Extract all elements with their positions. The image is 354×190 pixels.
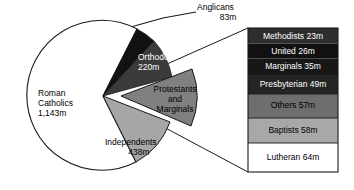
pie-label-roman-catholics-l1: Roman [38,88,65,98]
pie-label-orthodox-name: Orthodox [138,52,173,62]
bar-label-presbyterian: Presbyterian 49m [249,79,337,89]
pie-label-independents-name: Independents [105,137,157,147]
chart-figure: Anglicans83m Orthodox220m RomanCatholics… [0,0,354,190]
pie-label-protestants-l3: Marginals [157,104,194,114]
pie-label-roman-catholics-value: 1,143m [38,108,66,118]
pie-label-roman-catholics: RomanCatholics1,143m [38,88,118,118]
bar-label-methodists: Methodists 23m [249,31,337,41]
bar-label-others: Others 57m [249,100,337,110]
pie-label-protestants-l2: and [168,94,182,104]
pie-label-roman-catholics-l2: Catholics [38,98,73,108]
pie-label-independents-value: 438m [105,147,173,157]
pie-label-orthodox: Orthodox220m [138,52,218,72]
pie-label-orthodox-value: 220m [138,62,159,72]
pie-label-independents: Independents438m [105,137,201,157]
pie-label-protestants-and-marginals: ProtestantsandMarginals [136,84,214,114]
pie-label-anglicans-value: 83m [197,12,259,22]
pie-label-protestants-l1: Protestants [154,84,197,94]
pie-label-anglicans: Anglicans83m [197,2,293,22]
bar-label-lutheran: Lutheran 64m [249,152,337,162]
bar-label-united: United 26m [249,46,337,56]
pie-label-anglicans-name: Anglicans [197,2,234,12]
bar-label-baptists: Baptists 58m [249,125,337,135]
bar-label-marginals: Marginals 35m [249,61,337,71]
